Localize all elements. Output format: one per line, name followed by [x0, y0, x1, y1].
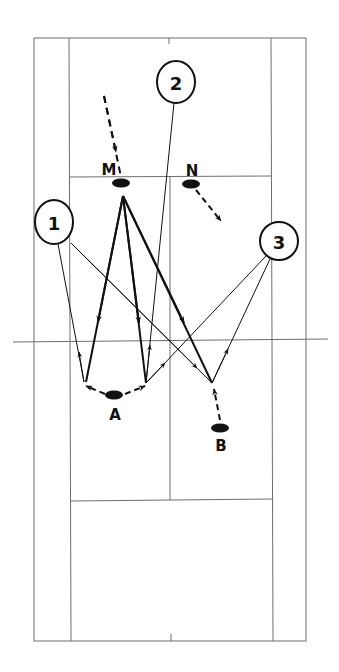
player-label-a: A	[109, 406, 121, 424]
player-a: A	[105, 391, 123, 425]
move-n-back	[196, 190, 221, 221]
target-1: 1	[35, 200, 73, 244]
court-diagram: 1 2 3 M N A B	[0, 0, 339, 672]
player-label-n: N	[186, 162, 199, 180]
target-2: 2	[157, 61, 195, 103]
move-b-forward	[214, 389, 220, 420]
shot-m-arrowhead-left	[98, 196, 123, 322]
target-label-1: 1	[48, 213, 61, 234]
move-m-arrowhead	[104, 96, 116, 152]
player-marker-b	[211, 424, 229, 433]
return-1-to-b-arrowhead	[71, 243, 197, 368]
player-m: M	[102, 161, 130, 188]
target-3: 3	[260, 222, 298, 260]
player-marker-n	[182, 180, 200, 189]
return-a-right-arrowhead-2	[146, 345, 150, 383]
court-lines	[13, 38, 328, 641]
singles-sideline-left	[69, 38, 71, 641]
target-label-3: 3	[273, 232, 286, 253]
player-n: N	[182, 162, 200, 189]
player-marker-a	[105, 391, 123, 400]
move-a-to-left	[86, 386, 105, 394]
shot-paths	[58, 96, 270, 420]
short-service-line-bottom	[71, 499, 273, 501]
return-a-right-arrowhead-3	[146, 363, 165, 383]
return-a-left-arrowhead	[79, 352, 84, 382]
target-label-2: 2	[170, 73, 183, 94]
player-label-b: B	[215, 437, 226, 455]
player-label-m: M	[102, 161, 117, 179]
player-b: B	[211, 424, 229, 456]
move-a-to-right	[125, 386, 145, 394]
short-service-line-top	[69, 176, 271, 177]
return-b-to-3-arrowhead	[212, 349, 228, 383]
player-marker-m	[112, 179, 130, 188]
